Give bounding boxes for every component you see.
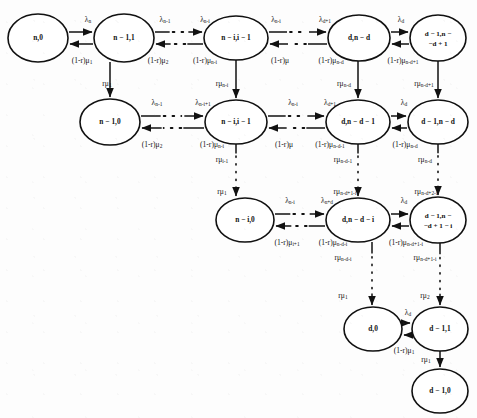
node-label: −d + 1	[428, 40, 448, 48]
state-node-dm1_1[interactable]: d − 1,1	[412, 307, 468, 351]
edge-label-row1-backward: (1-r)μ	[271, 56, 289, 65]
edge-label-row2-forward: λn-i+1	[195, 98, 211, 108]
edge-label-row3-backward: (1-r)μn-d+1-i	[389, 238, 424, 248]
state-node-d_ndmi[interactable]: d,n − d − i	[326, 198, 390, 242]
edge-label-row2-backward: (1-r)μ	[275, 140, 293, 149]
edge-label-vertical: rμn-d+1	[414, 79, 434, 89]
edge-label-vertical: rμn-d-i	[334, 253, 352, 263]
edge-label-row1-forward: λn-1	[160, 15, 171, 25]
node-label: n,0	[33, 33, 43, 42]
edge-label-vertical: rμ1	[421, 355, 431, 365]
edge-label-row2-forward: λd	[401, 98, 408, 108]
state-node-d_0[interactable]: d,0	[344, 307, 402, 351]
edge-label-row1-backward: (1-r)μ1	[72, 56, 93, 66]
state-node-dm1_ndp1mi[interactable]: d − 1,n −−d + 1 − i	[410, 197, 466, 243]
edge-label-row2-backward: (1-r)μ2	[142, 140, 163, 150]
edge-label-row1-forward: λn	[85, 15, 92, 25]
edge-label-row1-forward: λn-i	[271, 15, 281, 25]
edge-label-row1-backward: (1-r)μ2	[148, 56, 169, 66]
edge-label-row1-forward: λd	[398, 15, 405, 25]
node-label: d,n − d − 1	[341, 117, 375, 126]
node-label: n − i,0	[235, 215, 255, 224]
edge-label-vertical: rμn-d	[337, 79, 351, 89]
node-label: d − 1,n − d	[421, 117, 456, 126]
edge-label-vertical: rμn-d	[418, 155, 432, 165]
node-outline	[410, 15, 466, 61]
edge-label-row3-forward: λn+d	[321, 196, 333, 206]
node-label: d,n − d − i	[342, 215, 374, 224]
node-label: d,n − d	[348, 33, 371, 42]
edge-label-row1-backward: (1-r)μn-i	[193, 56, 217, 66]
node-label: d − 1,n −	[425, 212, 452, 220]
state-node-ni_i_1[interactable]: n − i,i − 1	[205, 100, 267, 144]
node-label: n − 1,1	[113, 33, 135, 42]
edge-label-row2-forward: λn-i	[288, 98, 298, 108]
state-transition-diagram: n,0n − 1,1n − i,i − 1d,n − dd − 1,n −−d …	[0, 0, 477, 418]
state-node-n0[interactable]: n,0	[8, 14, 68, 62]
node-label: −d + 1 − i	[424, 222, 453, 230]
edge-label-row1-forward: λn-i	[200, 15, 210, 25]
edge-label-row3-forward: λn-i	[285, 196, 295, 206]
edge-label-row1-backward: (1-r)μn-d+1	[388, 56, 419, 66]
edge-label-vertical: rμn-d+1-i	[334, 187, 357, 197]
edge-label-row1-backward: (1-r)μn-d	[318, 56, 343, 66]
node-label: n − 1,0	[99, 117, 121, 126]
node-label: d − 1,0	[429, 386, 451, 395]
edge-label-row2-backward: (1-r)μn-d	[392, 140, 417, 150]
node-outline	[410, 197, 466, 243]
state-node-ni_im1[interactable]: n − i,i − 1	[204, 16, 268, 60]
edge-label-vertical: rμn-d+2-i	[415, 187, 438, 197]
node-label: d − 1,n −	[425, 30, 452, 38]
edge-label-vertical: rμ2	[420, 291, 430, 301]
node-label: n − i,i − 1	[221, 33, 251, 42]
state-node-n1_0[interactable]: n − 1,0	[80, 99, 140, 145]
edge-label-row1-forward: λd+1	[319, 15, 331, 25]
edge-label-vertical: rμn-d-1	[334, 155, 353, 165]
edge-label-vertical: rμn-i	[216, 79, 229, 89]
edge-label-vertical: rμ1	[217, 187, 227, 197]
edge-label-vertical: rμn-d+1-i	[414, 253, 437, 263]
edge-label-row4-forward: λd	[405, 308, 412, 318]
edge-label-row3-backward: (1-r)μi+1	[274, 238, 300, 248]
edge-label-row4-backward: (1-r)μ1	[394, 346, 415, 356]
edge-label-vertical: rμi-1	[216, 155, 229, 165]
edge-label-row2-forward: λn-1	[152, 98, 163, 108]
state-node-dm1_ndp1[interactable]: d − 1,n −−d + 1	[410, 15, 466, 61]
node-label: d − 1,1	[429, 324, 451, 333]
diagram-canvas: n,0n − 1,1n − i,i − 1d,n − dd − 1,n −−d …	[0, 0, 477, 418]
edge-label-vertical: rμ1	[338, 291, 348, 301]
node-label: d,0	[368, 324, 378, 333]
edge-label-row3-forward: λd	[401, 196, 408, 206]
state-node-d_nd[interactable]: d,n − d	[328, 15, 390, 61]
state-node-dm1_0[interactable]: d − 1,0	[412, 369, 468, 413]
state-node-ni_0[interactable]: n − i,0	[216, 198, 274, 242]
node-label: n − i,i − 1	[221, 117, 251, 126]
state-node-n1_1[interactable]: n − 1,1	[94, 14, 154, 62]
state-node-dm1_nd[interactable]: d − 1,n − d	[408, 100, 468, 144]
edge-label-row2-forward: λd+1	[324, 98, 336, 108]
